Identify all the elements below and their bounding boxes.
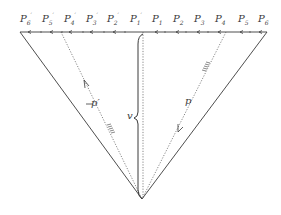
label-p6: P6: [258, 14, 269, 24]
label-p5: P5: [238, 14, 249, 24]
right-ray-label: p: [185, 96, 191, 106]
label-p6-prime: P6′: [20, 14, 32, 24]
diagram-canvas: [0, 0, 281, 215]
label-p3: P3: [194, 14, 205, 24]
label-p1: P1: [152, 14, 163, 24]
right-dotted-ray: [142, 32, 226, 199]
label-p5-prime: P5′: [42, 14, 54, 24]
label-p2-prime: P2′: [107, 14, 119, 24]
right-ray-arrow-icon: [178, 124, 183, 132]
label-p1-prime: P1′: [130, 14, 142, 24]
label-p2: P2: [173, 14, 184, 24]
label-p4: P4: [215, 14, 226, 24]
right-side: [142, 32, 267, 199]
left-side: [20, 32, 142, 199]
left-ray-label: p′: [91, 98, 100, 108]
brace-v: [134, 34, 143, 199]
label-p4-prime: P4′: [64, 14, 76, 24]
left-ray-arrow-icon: [84, 80, 89, 88]
left-ray-hatch: [107, 124, 115, 133]
label-p3-prime: P3′: [86, 14, 98, 24]
brace-label-v: v: [127, 111, 133, 121]
